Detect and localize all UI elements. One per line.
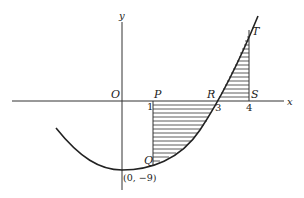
tick-label-1: 1 (147, 101, 153, 112)
point-T-label: T (252, 25, 261, 38)
vertex-label: (0, −9) (123, 172, 157, 183)
tick-label-4: 4 (246, 102, 252, 113)
graph-diagram: y x O P R S T Q 1 3 4 (0, −9) (0, 0, 304, 198)
y-axis-label: y (118, 10, 125, 21)
tick-label-3: 3 (215, 102, 221, 113)
point-R-label: R (206, 88, 215, 101)
point-P-label: P (153, 88, 162, 101)
x-axis-label: x (287, 96, 293, 107)
point-Q-label: Q (144, 154, 153, 167)
point-S-label: S (251, 88, 259, 101)
shaded-region-below (153, 105, 215, 161)
origin-label: O (111, 88, 120, 101)
